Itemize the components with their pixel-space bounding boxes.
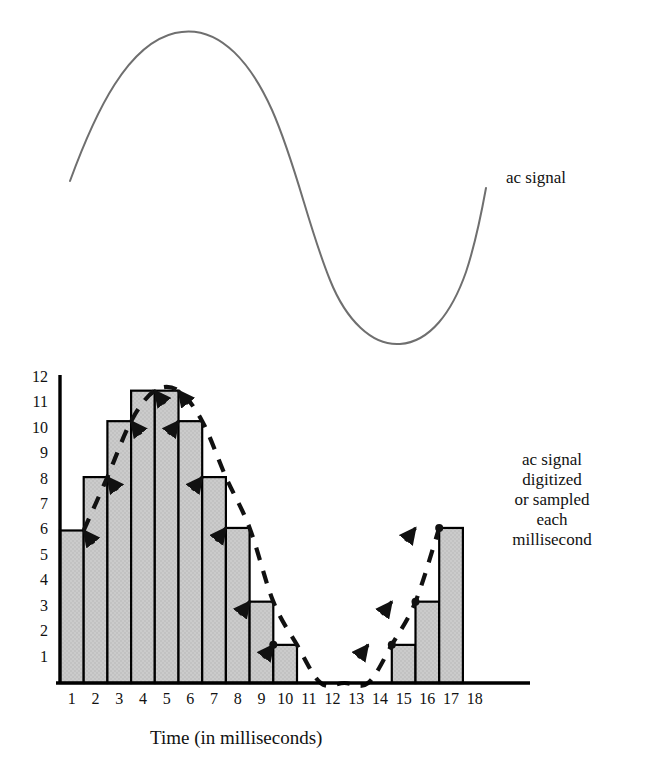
sample-point-16 [412,598,420,606]
y-tick-11: 11 [22,393,48,411]
x-tick-8: 8 [226,690,250,708]
x-tick-2: 2 [84,690,108,708]
x-tick-7: 7 [202,690,226,708]
envelope-marker-14 [358,645,368,658]
y-tick-7: 7 [22,495,48,513]
y-tick-6: 6 [22,520,48,538]
x-tick-4: 4 [131,690,155,708]
bar-16 [416,602,440,683]
x-axis-title: Time (in milliseconds) [150,727,322,749]
bar-9 [250,602,274,683]
bar-4 [131,391,155,683]
bar-7 [202,477,226,683]
envelope-marker-16 [406,528,416,541]
x-tick-17: 17 [439,690,463,708]
y-tick-4: 4 [22,571,48,589]
digitized-line-5: millisecond [468,530,636,550]
bar-6 [179,421,203,683]
y-tick-1: 1 [22,648,48,666]
digitized-line-3: or sampled [468,490,636,510]
sample-point-10 [269,641,277,649]
x-tick-5: 5 [155,690,179,708]
bar-17 [439,528,463,683]
digitized-line-2: digitized [468,470,636,490]
y-tick-9: 9 [22,444,48,462]
x-tick-3: 3 [107,690,131,708]
x-tick-10: 10 [273,690,297,708]
x-tick-14: 14 [368,690,392,708]
x-tick-6: 6 [178,690,202,708]
bar-series [60,391,463,683]
x-tick-16: 16 [415,690,439,708]
y-tick-12: 12 [22,368,48,386]
y-tick-2: 2 [22,622,48,640]
bar-15 [392,645,416,683]
bar-5 [155,391,179,683]
x-tick-13: 13 [344,690,368,708]
bar-1 [60,530,84,683]
digitized-line-4: each [468,510,636,530]
digitized-bar-chart [0,0,658,770]
envelope-marker-15 [382,602,392,615]
x-tick-12: 12 [321,690,345,708]
sample-point-17 [435,524,443,532]
bar-3 [107,421,131,683]
x-tick-11: 11 [297,690,321,708]
sample-point-15 [388,641,396,649]
y-tick-3: 3 [22,597,48,615]
y-tick-10: 10 [22,419,48,437]
x-tick-18: 18 [463,690,487,708]
bar-10 [273,645,297,683]
digitized-line-1: ac signal [468,450,636,470]
x-tick-9: 9 [249,690,273,708]
x-tick-15: 15 [392,690,416,708]
y-tick-5: 5 [22,546,48,564]
digitized-annotation: ac signal digitized or sampled each mill… [468,450,636,550]
y-tick-8: 8 [22,470,48,488]
figure-root: ac signal 123456789101112 123456789 [0,0,658,770]
x-tick-1: 1 [60,690,84,708]
